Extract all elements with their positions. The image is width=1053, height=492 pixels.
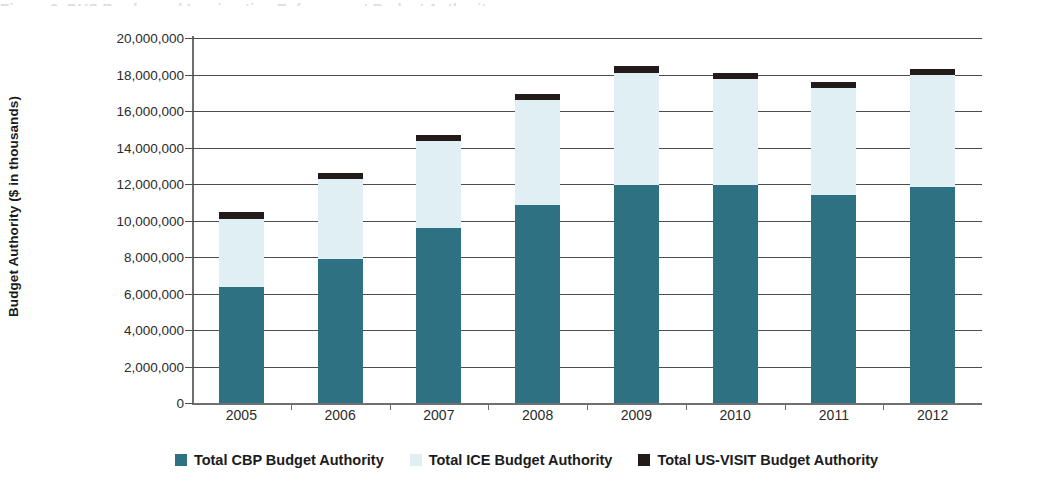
x-axis-tick-label-2009: 2009 <box>587 407 685 423</box>
bar-segment-usvisit-2006[interactable] <box>318 173 363 179</box>
gridline <box>192 257 982 258</box>
bar-segment-usvisit-2008[interactable] <box>515 94 560 100</box>
y-axis-tick-label: 2,000,000 <box>34 359 184 374</box>
legend-item-1[interactable]: Total ICE Budget Authority <box>410 452 613 468</box>
y-axis-tick-label: 12,000,000 <box>34 177 184 192</box>
y-axis-tick-label: 8,000,000 <box>34 250 184 265</box>
y-axis-title-text: Budget Authority ($ in thousands) <box>7 95 22 316</box>
bar-segment-ice-2008[interactable] <box>515 100 560 205</box>
y-axis-tick-label: 14,000,000 <box>34 140 184 155</box>
gridline <box>192 221 982 222</box>
legend-label: Total CBP Budget Authority <box>194 452 384 468</box>
bar-segment-usvisit-2005[interactable] <box>219 212 264 218</box>
gridline <box>192 38 982 39</box>
bar-stack-2009[interactable] <box>614 38 659 403</box>
bar-segment-usvisit-2012[interactable] <box>910 69 955 75</box>
y-axis-tick <box>185 330 193 331</box>
bar-segment-ice-2011[interactable] <box>811 88 856 195</box>
x-axis-tick-label-2005: 2005 <box>192 407 290 423</box>
x-axis-tick-label-2007: 2007 <box>390 407 488 423</box>
gridline <box>192 330 982 331</box>
bar-stack-2011[interactable] <box>811 38 856 403</box>
gridline <box>192 111 982 112</box>
y-axis-tick-label: 4,000,000 <box>34 323 184 338</box>
y-axis-tick-label: 20,000,000 <box>34 31 184 46</box>
bar-stack-2012[interactable] <box>910 38 955 403</box>
bar-segment-cbp-2007[interactable] <box>416 228 461 403</box>
y-axis-tick-label: 10,000,000 <box>34 213 184 228</box>
stacked-bar-chart: Budget Authority ($ in thousands) 02,000… <box>0 0 1053 492</box>
y-axis-tick-labels: 02,000,0004,000,0006,000,0008,000,00010,… <box>32 38 184 403</box>
y-axis-tick-label: 6,000,000 <box>34 286 184 301</box>
x-axis-tick-label-2011: 2011 <box>785 407 883 423</box>
x-axis-tick-labels: 20052006200720082009201020112012 <box>192 407 982 431</box>
y-axis-tick <box>185 148 193 149</box>
bar-segment-ice-2010[interactable] <box>713 79 758 185</box>
bar-segment-usvisit-2009[interactable] <box>614 66 659 72</box>
gridline <box>192 184 982 185</box>
y-axis-tick <box>185 38 193 39</box>
y-axis-tick <box>185 111 193 112</box>
bar-segment-cbp-2012[interactable] <box>910 187 955 403</box>
y-axis-tick <box>185 221 193 222</box>
bar-segment-usvisit-2010[interactable] <box>713 73 758 79</box>
gridline <box>192 367 982 368</box>
bar-segment-cbp-2005[interactable] <box>219 287 264 403</box>
bar-segment-cbp-2008[interactable] <box>515 205 560 403</box>
x-axis-tick-label-2008: 2008 <box>489 407 587 423</box>
bar-segment-cbp-2011[interactable] <box>811 195 856 403</box>
y-axis-title: Budget Authority ($ in thousands) <box>0 0 28 412</box>
bar-stack-2007[interactable] <box>416 38 461 403</box>
legend-label: Total ICE Budget Authority <box>429 452 613 468</box>
y-axis-tick-label: 18,000,000 <box>34 67 184 82</box>
bar-segment-cbp-2010[interactable] <box>713 185 758 403</box>
bar-segment-ice-2005[interactable] <box>219 219 264 287</box>
y-axis-tick <box>185 75 193 76</box>
bar-segment-ice-2009[interactable] <box>614 73 659 185</box>
bar-segment-ice-2007[interactable] <box>416 141 461 228</box>
bar-stack-2010[interactable] <box>713 38 758 403</box>
y-axis-tick <box>185 257 193 258</box>
bar-segment-cbp-2006[interactable] <box>318 259 363 403</box>
ice-swatch <box>410 454 422 466</box>
legend-label: Total US-VISIT Budget Authority <box>657 452 878 468</box>
bar-stack-2005[interactable] <box>219 38 264 403</box>
y-axis-tick-label: 0 <box>34 396 184 411</box>
x-axis-tick-label-2010: 2010 <box>686 407 784 423</box>
bar-segment-usvisit-2011[interactable] <box>811 82 856 88</box>
bar-stack-2006[interactable] <box>318 38 363 403</box>
y-axis-tick <box>185 403 193 404</box>
plot-area <box>192 38 982 403</box>
us-visit-swatch <box>638 454 650 466</box>
gridline <box>192 75 982 76</box>
x-axis-tick-label-2012: 2012 <box>884 407 982 423</box>
x-axis-tick-label-2006: 2006 <box>291 407 389 423</box>
gridline <box>192 294 982 295</box>
y-axis-tick <box>185 294 193 295</box>
bar-segment-usvisit-2007[interactable] <box>416 135 461 141</box>
y-axis-tick <box>185 367 193 368</box>
legend-item-0[interactable]: Total CBP Budget Authority <box>175 452 384 468</box>
chart-legend: Total CBP Budget AuthorityTotal ICE Budg… <box>0 452 1053 468</box>
bar-segment-ice-2006[interactable] <box>318 179 363 258</box>
y-axis-tick-label: 16,000,000 <box>34 104 184 119</box>
bar-stack-2008[interactable] <box>515 38 560 403</box>
bar-segment-ice-2012[interactable] <box>910 75 955 186</box>
legend-item-2[interactable]: Total US-VISIT Budget Authority <box>638 452 878 468</box>
gridline <box>192 148 982 149</box>
y-axis-tick <box>185 184 193 185</box>
cbp-swatch <box>175 454 187 466</box>
bar-segment-cbp-2009[interactable] <box>614 185 659 403</box>
